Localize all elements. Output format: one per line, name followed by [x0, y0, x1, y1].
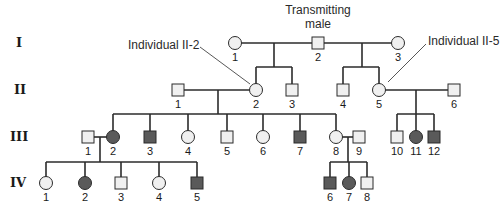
individual-number: 2 — [110, 145, 116, 157]
individual-III-7: 7 — [294, 131, 306, 157]
individual-number: 4 — [156, 191, 162, 203]
male-square-icon — [448, 84, 460, 96]
individual-number: 6 — [451, 98, 457, 110]
individual-number: 2 — [82, 191, 88, 203]
individual-number: 1 — [175, 98, 181, 110]
individual-II-1: 1 — [172, 84, 184, 110]
individual-IV-7: 7 — [343, 177, 356, 204]
generation-label-I: I — [16, 35, 22, 50]
individual-number: 7 — [297, 145, 303, 157]
individual-number: 2 — [253, 98, 259, 110]
affected-female-circle-icon — [410, 131, 423, 144]
female-circle-icon — [257, 131, 270, 144]
individual-number: 8 — [364, 191, 370, 203]
generation-label-III: III — [10, 129, 28, 144]
transmitting-male-label: Transmitting — [285, 3, 351, 17]
individual-IV-5: 5 — [191, 177, 203, 203]
individual-ii2-pointer — [200, 47, 250, 84]
individual-number: 5 — [376, 98, 382, 110]
female-circle-icon — [250, 84, 263, 97]
affected-female-circle-icon — [79, 177, 92, 190]
male-square-icon — [391, 131, 403, 143]
individual-IV-8: 8 — [361, 177, 373, 203]
individual-III-3: 3 — [144, 131, 156, 157]
female-circle-icon — [229, 37, 242, 50]
individual-IV-1: 1 — [40, 177, 53, 204]
female-circle-icon — [392, 37, 405, 50]
individual-III-10: 10 — [391, 131, 403, 157]
individual-number: 7 — [346, 191, 352, 203]
individual-number: 3 — [147, 145, 153, 157]
individual-III-9: 9 — [353, 131, 365, 157]
individual-number: 3 — [289, 98, 295, 110]
individual-III-5: 5 — [221, 131, 233, 157]
individual-I-2: 2 — [312, 37, 324, 63]
affected-male-square-icon — [191, 177, 203, 189]
individual-number: 1 — [232, 51, 238, 63]
individual-III-1: 1 — [82, 131, 94, 157]
male-square-icon — [337, 84, 349, 96]
individual-II-5: 5 — [373, 84, 386, 111]
individual-IV-3: 3 — [115, 177, 127, 203]
affected-male-square-icon — [144, 131, 156, 143]
male-square-icon — [172, 84, 184, 96]
transmitting-male-label-2: male — [305, 17, 331, 31]
individual-ii2-label: Individual II-2 — [128, 38, 200, 52]
male-square-icon — [312, 37, 324, 49]
individual-number: 3 — [118, 191, 124, 203]
male-square-icon — [221, 131, 233, 143]
affected-male-square-icon — [324, 177, 336, 189]
individual-number: 11 — [410, 145, 421, 157]
individual-IV-6: 6 — [324, 177, 336, 203]
individual-number: 12 — [428, 145, 440, 157]
individual-number: 1 — [43, 191, 49, 203]
female-circle-icon — [330, 131, 343, 144]
affected-male-square-icon — [428, 131, 440, 143]
individual-number: 5 — [194, 191, 200, 203]
individual-IV-4: 4 — [153, 177, 166, 204]
affected-female-circle-icon — [343, 177, 356, 190]
generation-label-II: II — [14, 82, 26, 97]
gen-II-lines — [113, 90, 448, 131]
individual-II-4: 4 — [337, 84, 349, 110]
individual-III-4: 4 — [182, 131, 195, 158]
male-square-icon — [286, 84, 298, 96]
individual-ii5-label: Individual II-5 — [428, 34, 500, 48]
individual-number: 3 — [395, 51, 401, 63]
individual-number: 1 — [85, 145, 91, 157]
individual-number: 2 — [315, 51, 321, 63]
female-circle-icon — [153, 177, 166, 190]
male-square-icon — [361, 177, 373, 189]
individual-number: 4 — [185, 145, 191, 157]
individual-number: 5 — [224, 145, 230, 157]
individual-number: 4 — [340, 98, 346, 110]
individual-number: 6 — [327, 191, 333, 203]
male-square-icon — [115, 177, 127, 189]
individual-II-6: 6 — [448, 84, 460, 110]
individual-number: 9 — [356, 145, 362, 157]
individual-III-8: 8 — [330, 131, 343, 158]
female-circle-icon — [40, 177, 53, 190]
individual-number: 8 — [333, 145, 339, 157]
generation-label-IV: IV — [10, 175, 27, 190]
individual-I-1: 1 — [229, 37, 242, 64]
individual-number: 10 — [391, 145, 403, 157]
pedigree-chart: I II III IV Transmitting male Individual… — [0, 0, 504, 210]
affected-male-square-icon — [294, 131, 306, 143]
individual-III-12: 12 — [428, 131, 440, 157]
male-square-icon — [353, 131, 365, 143]
affected-female-circle-icon — [107, 131, 120, 144]
individual-IV-2: 2 — [79, 177, 92, 204]
female-circle-icon — [182, 131, 195, 144]
individual-I-3: 3 — [392, 37, 405, 64]
individual-II-3: 3 — [286, 84, 298, 110]
female-circle-icon — [373, 84, 386, 97]
individual-III-6: 6 — [257, 131, 270, 158]
individual-III-11: 11 — [410, 131, 423, 158]
individual-III-2: 2 — [107, 131, 120, 158]
male-square-icon — [82, 131, 94, 143]
individual-II-2: 2 — [250, 84, 263, 111]
individual-number: 6 — [260, 145, 266, 157]
individual-ii5-pointer — [388, 44, 426, 82]
